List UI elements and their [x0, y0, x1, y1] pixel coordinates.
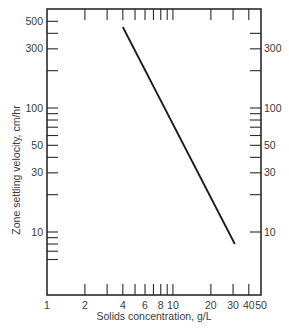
settling-velocity-line [123, 27, 235, 244]
x-tick-label: 40 [243, 299, 255, 311]
plot-border [47, 9, 261, 295]
x-axis-title: Solids concentration, g/L [97, 310, 212, 322]
y-tick-label-right: 10 [264, 226, 276, 238]
plot-frame [47, 9, 261, 295]
x-tick-label: 50 [255, 299, 267, 311]
settling-velocity-chart: 124681020304050 500300100503010 30010050… [0, 0, 289, 329]
y-tick-label-right: 30 [264, 166, 276, 178]
y-tick-label-left: 10 [31, 226, 43, 238]
x-tick-label: 2 [82, 299, 88, 311]
data-series [123, 27, 235, 244]
y-tick-label-left: 50 [31, 139, 43, 151]
y-axis-left-ticks: 500300100503010 [25, 15, 58, 260]
y-axis-right-ticks: 300100503010 [250, 33, 282, 237]
y-tick-label-left: 500 [25, 15, 43, 27]
y-tick-label-left: 30 [31, 166, 43, 178]
x-tick-label: 30 [227, 299, 239, 311]
y-axis-title: Zone settling velocity, cm/hr [10, 105, 22, 235]
y-tick-label-right: 50 [264, 139, 276, 151]
y-tick-label-right: 300 [264, 42, 282, 54]
y-tick-label-left: 300 [25, 42, 43, 54]
y-tick-label-right: 100 [264, 102, 282, 114]
x-tick-label: 1 [44, 299, 50, 311]
x-axis-ticks: 124681020304050 [44, 9, 267, 311]
y-tick-label-left: 100 [25, 102, 43, 114]
